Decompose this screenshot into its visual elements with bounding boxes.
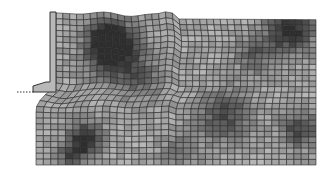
mesh-cell [309,53,316,59]
mesh-cell [161,124,168,130]
mesh-cell [65,118,72,124]
mesh-cell [213,81,220,87]
mesh-cell [235,148,242,154]
mesh-cell [131,67,138,73]
mesh-cell [275,81,282,87]
mesh-cell [154,153,161,159]
mesh-cell [301,115,308,121]
mesh-cell [220,154,227,160]
mesh-cell [281,87,288,93]
mesh-cell [228,120,235,126]
mesh-cell [73,148,80,154]
mesh-cell [269,31,276,37]
mesh-cell [266,92,274,98]
mesh-cell [145,55,153,61]
mesh-cell [58,153,65,159]
mesh-cell [186,64,193,70]
mesh-cell [83,72,90,78]
mesh-cell [272,98,280,104]
mesh-cell [73,142,80,148]
mesh-cell [43,130,50,136]
mesh-cell [187,30,195,36]
mesh-cell [279,143,286,149]
mesh-cell [183,154,190,160]
mesh-cell [146,49,154,55]
mesh-cell [104,18,111,25]
mesh-cell [117,159,124,165]
mesh-cell [56,71,63,77]
mesh-cell [70,43,77,49]
mesh-cell [220,75,227,81]
mesh-cell [221,25,229,31]
mesh-cell [283,48,290,54]
mesh-cell [287,115,294,121]
mesh-cell [228,159,235,165]
mesh-cell [104,65,111,71]
mesh-cell [241,59,248,65]
mesh-cell [301,109,308,115]
mesh-cell [242,47,249,53]
mesh-cell [261,64,268,70]
mesh-cell [282,25,289,31]
mesh-cell [188,36,195,42]
mesh-cell [63,37,70,43]
mesh-cell [132,131,139,137]
mesh-cell [282,59,289,65]
mesh-cell [147,148,154,154]
mesh-cell [272,115,279,121]
mesh-cell [161,112,168,118]
mesh-cell [132,148,139,154]
mesh-cell [51,153,58,159]
mesh-cell [117,136,124,142]
mesh-cell [213,137,220,143]
mesh-cell [200,64,207,70]
mesh-cell [247,70,254,76]
mesh-cell [275,75,282,81]
mesh-cell [191,131,198,137]
mesh-cell [264,131,271,137]
mesh-cell [147,142,154,148]
mesh-cell [235,143,242,149]
mesh-cell [294,98,302,104]
mesh-cell [287,143,294,149]
mesh-cell [242,143,249,149]
mesh-cell [110,118,117,124]
mesh-cell [229,42,236,48]
mesh-cell [272,137,279,143]
mesh-cell [154,106,162,112]
mesh-cell [36,130,43,136]
mesh-cell [73,124,80,130]
mesh-cell [193,58,200,64]
mesh-cell [279,115,286,121]
mesh-cell [105,47,112,53]
mesh-cell [56,48,63,54]
mesh-cell [309,48,316,54]
mesh-cell [303,48,310,54]
mesh-cell [302,53,309,59]
mesh-cell [124,119,131,125]
mesh-cell [296,53,303,59]
mesh-cell [279,109,286,115]
mesh-cell [220,103,228,109]
mesh-cell [272,154,279,160]
mesh-cell [250,126,257,132]
mesh-cell [97,77,104,83]
mesh-cell [213,115,220,121]
mesh-cell [51,118,58,124]
mesh-cell [147,153,154,159]
mesh-cell [301,148,308,154]
mesh-cell [90,77,97,83]
mesh-cell [179,81,186,87]
mesh-cell [51,142,58,148]
mesh-cell [269,42,276,48]
mesh-cell [80,136,87,142]
mesh-cell [241,25,248,31]
mesh-cell [147,124,154,130]
mesh-cell [287,159,294,165]
mesh-cell [199,81,206,87]
mesh-cell [264,148,271,154]
mesh-cell [216,42,223,48]
mesh-cell [234,59,241,65]
mesh-cell [269,53,276,59]
mesh-cell [235,115,242,121]
